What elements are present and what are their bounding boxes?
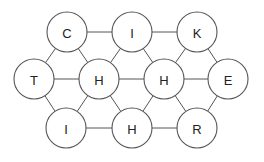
node-label: E — [224, 73, 233, 88]
node-label: C — [62, 26, 71, 41]
letter-node-h: H — [79, 59, 119, 99]
nodes: CIKTHHEIHR — [14, 12, 248, 148]
node-label: I — [64, 122, 68, 137]
node-label: K — [193, 26, 202, 41]
node-label: R — [192, 122, 201, 137]
node-label: H — [127, 122, 136, 137]
node-label: H — [159, 73, 168, 88]
letter-node-h: H — [112, 108, 152, 148]
letter-node-h: H — [144, 59, 184, 99]
letter-node-k: K — [177, 12, 217, 52]
node-label: I — [130, 26, 134, 41]
node-label: H — [94, 73, 103, 88]
node-label: T — [30, 73, 38, 88]
letter-node-r: R — [177, 108, 217, 148]
letter-node-t: T — [14, 59, 54, 99]
letter-node-e: E — [208, 59, 248, 99]
letter-node-i: I — [46, 108, 86, 148]
letter-node-c: C — [47, 12, 87, 52]
letter-node-i: I — [112, 12, 152, 52]
letter-grid-diagram: CIKTHHEIHR — [0, 0, 264, 162]
